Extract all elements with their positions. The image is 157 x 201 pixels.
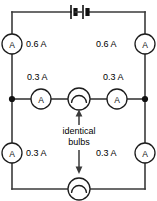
- ammeter-bottom-right-letter: A: [142, 149, 148, 159]
- caption-line-1: identical: [41, 126, 117, 137]
- ammeter-bottom-right: A: [135, 143, 155, 163]
- ammeter-top-left-letter: A: [9, 40, 15, 50]
- ammeter-top-left-reading: 0.6 A: [26, 39, 47, 49]
- bulb-bottom: [68, 178, 90, 200]
- ammeter-top-right: A: [135, 34, 155, 54]
- ammeter-middle-right: A: [107, 89, 127, 109]
- ammeter-middle-left-letter: A: [38, 95, 44, 105]
- annotation-arrow-up: [76, 110, 83, 126]
- caption-line-2: bulbs: [41, 137, 117, 148]
- junction-left: [9, 96, 15, 102]
- junction-right: [142, 96, 148, 102]
- annotation-arrow-down: [76, 150, 83, 174]
- battery-symbol: [71, 5, 88, 19]
- ammeter-bottom-left-reading: 0.3 A: [26, 148, 47, 158]
- ammeter-top-left: A: [2, 34, 22, 54]
- identical-bulbs-caption: identical bulbs: [41, 126, 117, 148]
- ammeter-bottom-left: A: [2, 143, 22, 163]
- ammeter-top-right-letter: A: [142, 40, 148, 50]
- ammeter-middle-right-reading: 0.3 A: [103, 72, 124, 82]
- ammeter-bottom-left-letter: A: [9, 149, 15, 159]
- ammeter-middle-left-reading: 0.3 A: [27, 72, 48, 82]
- circuit-svg: A A A A A A: [0, 0, 157, 201]
- ammeter-middle-right-letter: A: [114, 95, 120, 105]
- ammeter-top-right-reading: 0.6 A: [96, 39, 117, 49]
- circuit-diagram: A A A A A A: [0, 0, 157, 201]
- ammeter-middle-left: A: [31, 89, 51, 109]
- bulb-middle: [68, 88, 90, 110]
- ammeter-bottom-right-reading: 0.3 A: [96, 148, 117, 158]
